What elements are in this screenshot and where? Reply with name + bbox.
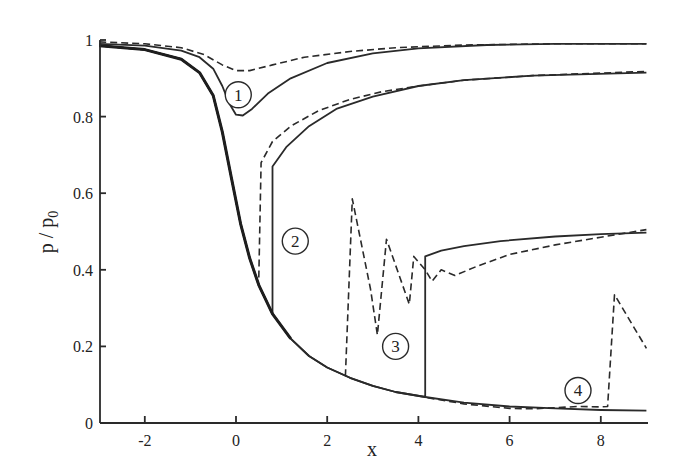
marker-label: 1	[234, 86, 243, 105]
y-tick-label: 1	[85, 32, 93, 49]
y-tick-label: 0.2	[73, 338, 93, 355]
annotation-marker-4: 4	[565, 377, 591, 403]
x-tick-label: 6	[506, 432, 514, 449]
y-tick-label: 0.4	[73, 262, 93, 279]
series-line-7	[99, 46, 646, 411]
annotation-marker-3: 3	[383, 333, 409, 359]
marker-label: 2	[291, 232, 300, 251]
overlapping-curves	[99, 46, 291, 339]
x-tick-label: 8	[597, 432, 605, 449]
x-tick-label: -2	[138, 432, 151, 449]
marker-label: 3	[391, 337, 400, 356]
x-tick-label: 2	[323, 432, 331, 449]
x-tick-label: 4	[414, 432, 422, 449]
annotation-marker-2: 2	[282, 228, 308, 254]
x-tick-label: 0	[232, 432, 240, 449]
x-axis-label: x	[367, 438, 377, 460]
series-line-4	[259, 71, 647, 277]
y-tick-label: 0.6	[73, 185, 93, 202]
y-axis-label-text: p / p0	[35, 211, 61, 254]
marker-label: 4	[574, 381, 583, 400]
annotation-marker-1: 1	[225, 82, 251, 108]
axes	[100, 40, 648, 423]
annotations: 1234	[225, 82, 591, 404]
chart: -202468 00.20.40.60.81 x p / p0 1234	[0, 0, 681, 476]
series-line-1	[99, 44, 646, 116]
series-line-3	[99, 46, 646, 314]
y-tick-label: 0	[85, 415, 93, 432]
series-line-8	[428, 295, 647, 409]
series-line-2	[99, 42, 646, 71]
y-ticks: 00.20.40.60.81	[73, 32, 106, 432]
y-tick-label: 0.8	[73, 109, 93, 126]
series-line-5	[99, 46, 646, 397]
plot-lines	[99, 42, 646, 411]
y-axis-label: p / p0	[35, 211, 61, 254]
